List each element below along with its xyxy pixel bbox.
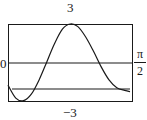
x-max-denominator: 2 xyxy=(137,64,143,78)
y-zero-label: 0 xyxy=(0,57,7,70)
x-max-label: π 2 xyxy=(134,48,146,77)
x-max-numerator: π xyxy=(137,47,143,61)
fraction-bar xyxy=(134,62,146,63)
graph-plot xyxy=(0,0,147,120)
y-max-label: 3 xyxy=(67,1,74,14)
y-min-label: −3 xyxy=(63,106,77,119)
